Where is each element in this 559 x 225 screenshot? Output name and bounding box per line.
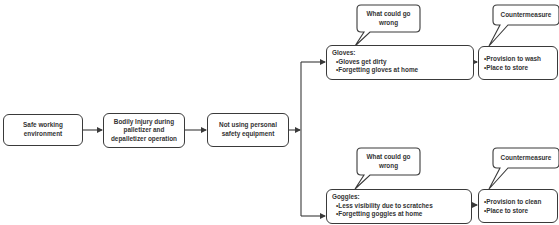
callout-countermeasure-gloves: Countermeasure: [493, 5, 559, 25]
flow-box-label: Not using personal safety equipment: [212, 121, 284, 138]
branch-box-gloves: Gloves: •Gloves get dirty •Forgetting gl…: [326, 45, 474, 80]
countermeasure-item: •Place to store: [484, 207, 552, 216]
countermeasure-box-goggles: •Provision to clean •Place to store: [478, 189, 558, 223]
branch-item: •Forgetting gloves at home: [332, 66, 468, 75]
branch-box-goggles: Goggles: •Less visibility due to scratch…: [326, 189, 472, 224]
branch-item: •Less visibility due to scratches: [332, 202, 466, 211]
countermeasure-item: •Place to store: [484, 64, 552, 73]
branch-title: Goggles:: [332, 193, 466, 202]
flow-box-safe-working-environment: Safe working environment: [3, 114, 83, 146]
callout-what-could-go-wrong-gloves: What could go wrong: [357, 5, 420, 32]
flow-box-bodily-injury: Bodily Injury during palletizer and depa…: [103, 113, 185, 148]
flow-box-label: Bodily Injury during palletizer and depa…: [108, 118, 180, 144]
branch-item: •Gloves get dirty: [332, 58, 468, 67]
flow-box-label: Safe working environment: [8, 121, 78, 138]
countermeasure-item: •Provision to clean: [484, 198, 552, 207]
callout-countermeasure-goggles: Countermeasure: [493, 148, 559, 168]
branch-item: •Forgetting goggles at home: [332, 210, 466, 219]
branch-title: Gloves:: [332, 49, 468, 58]
flow-box-not-using-safety-equipment: Not using personal safety equipment: [207, 113, 289, 147]
countermeasure-item: •Provision to wash: [484, 55, 552, 64]
countermeasure-box-gloves: •Provision to wash •Place to store: [478, 46, 558, 80]
callout-what-could-go-wrong-goggles: What could go wrong: [357, 148, 420, 175]
